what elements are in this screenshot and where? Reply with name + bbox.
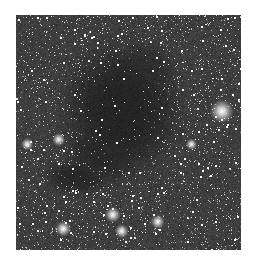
image-caption: Dark molecular cloud silhouetted against… xyxy=(16,250,17,251)
starfield-photo: Dark molecular cloud silhouetted against… xyxy=(16,15,241,250)
dark-nebula-image xyxy=(16,15,241,250)
